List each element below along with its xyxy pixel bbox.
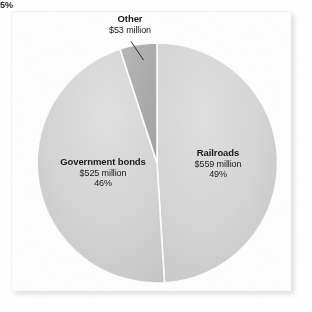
slice-label-railroads-percent: 49% [168,169,268,179]
slice-label-railroads-value: $559 million [168,159,268,169]
slice-label-other-value: $53 million [72,25,188,35]
slice-label-railroads-name: Railroads [168,148,268,159]
slice-label-other-name: Other [72,14,188,25]
slice-label-other: Other $53 million [72,14,188,35]
slice-label-government-bonds-name: Government bonds [42,157,164,168]
pie-chart-figure: Other $53 million 5% Railroads $559 mill… [0,0,312,312]
slice-label-government-bonds: Government bonds $525 million 46% [42,157,164,188]
slice-label-railroads: Railroads $559 million 49% [168,148,268,179]
slice-label-government-bonds-value: $525 million [42,168,164,178]
slice-label-government-bonds-percent: 46% [42,178,164,188]
